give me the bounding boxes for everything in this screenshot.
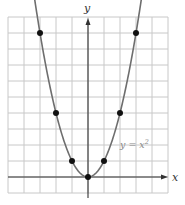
data-point [37, 30, 43, 36]
parabola-chart: y x y = x2 [0, 0, 185, 205]
data-point [69, 158, 75, 164]
x-axis-label: x [172, 171, 179, 184]
x-axis-arrow-icon [161, 175, 168, 180]
data-point [117, 110, 123, 116]
y-axis-arrow-icon [86, 18, 91, 25]
y-axis-label: y [83, 2, 91, 15]
data-point [101, 158, 107, 164]
data-point [53, 110, 59, 116]
curve-label: y = x2 [119, 138, 149, 150]
axes [8, 18, 168, 198]
data-point [85, 174, 91, 180]
data-point [133, 30, 139, 36]
